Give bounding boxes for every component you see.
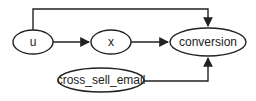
node-x: x	[91, 30, 131, 54]
node-cross-sell-email: cross_sell_email	[57, 68, 146, 92]
edge-cross-sell-email-to-conversion	[144, 58, 208, 81]
node-u: u	[13, 30, 53, 54]
node-u-label: u	[30, 35, 37, 49]
node-x-label: x	[108, 35, 114, 49]
causal-diagram: u x conversion cross_sell_email	[0, 0, 256, 101]
diagram-svg: u x conversion cross_sell_email	[0, 0, 256, 101]
node-cross-sell-email-label: cross_sell_email	[57, 73, 146, 87]
node-conversion-label: conversion	[179, 35, 237, 49]
edge-u-to-conversion	[33, 9, 208, 30]
node-conversion: conversion	[170, 28, 246, 56]
